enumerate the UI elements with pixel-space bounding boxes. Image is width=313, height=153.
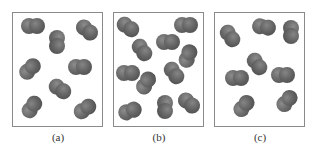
diatomic-molecule bbox=[68, 59, 92, 75]
atom bbox=[124, 65, 140, 81]
diatomic-molecule bbox=[156, 34, 180, 50]
atom bbox=[182, 17, 198, 33]
diatomic-molecule bbox=[157, 95, 173, 119]
diatomic-molecule bbox=[116, 65, 140, 81]
diatomic-molecule bbox=[225, 70, 249, 86]
panel-b-label: (b) bbox=[113, 131, 205, 143]
atom bbox=[49, 38, 65, 54]
atom bbox=[164, 34, 180, 50]
diatomic-molecule bbox=[174, 17, 198, 33]
atom bbox=[76, 59, 92, 75]
atom bbox=[279, 67, 295, 83]
atom bbox=[233, 70, 249, 86]
atom bbox=[283, 28, 299, 44]
diatomic-molecule bbox=[49, 30, 65, 54]
diatomic-molecule bbox=[21, 18, 45, 34]
atom bbox=[29, 18, 45, 34]
diatomic-molecule bbox=[283, 20, 299, 44]
panel-c-label: (c) bbox=[214, 131, 306, 143]
panel-a-label: (a) bbox=[12, 131, 104, 143]
atom bbox=[157, 103, 173, 119]
diatomic-molecule bbox=[271, 67, 295, 83]
